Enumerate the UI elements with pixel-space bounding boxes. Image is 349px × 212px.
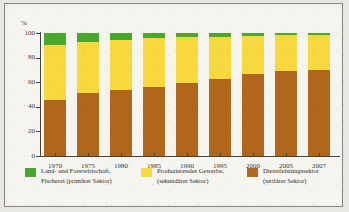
bar-segment-primärer (44, 33, 66, 45)
y-axis-tick-label: 60 (9, 79, 35, 86)
x-axis-tick (286, 153, 287, 157)
bar-column[interactable] (110, 33, 132, 156)
bar-segment-tertiärer (275, 71, 297, 156)
bar-segment-sekundärer (44, 45, 66, 100)
bar-segment-tertiärer (44, 100, 66, 156)
y-axis-tick-label: 100 (9, 30, 35, 37)
stacked-bar (242, 33, 264, 156)
stacked-bar (275, 33, 297, 156)
y-axis-tick (36, 156, 41, 157)
y-axis-labels: 020406080100 (7, 6, 35, 172)
legend-label-line1: Dienstleistungssektor (263, 166, 349, 176)
legend-label: Dienstleistungssektor(tertiärer Sektor) (263, 166, 349, 185)
x-axis-tick (220, 153, 221, 157)
bar-segment-sekundärer (77, 42, 99, 94)
bar-segment-tertiärer (308, 70, 330, 156)
chart-legend: Land- und Forstwirtschaft,Fischerei (pri… (7, 166, 346, 200)
legend-color-swatch (141, 168, 152, 177)
y-axis-tick (36, 107, 41, 108)
bar-segment-primärer (176, 33, 198, 37)
bar-segment-primärer (242, 33, 264, 36)
bar-segment-sekundärer (308, 35, 330, 69)
bar-segment-tertiärer (176, 83, 198, 156)
bar-column[interactable] (44, 33, 66, 156)
x-axis-tick (253, 153, 254, 157)
y-axis-tick (36, 131, 41, 132)
bar-segment-primärer (209, 33, 231, 37)
x-axis-tick (55, 153, 56, 157)
y-axis-tick-label: 0 (9, 153, 35, 160)
bar-segment-sekundärer (275, 35, 297, 70)
x-axis-tick (88, 153, 89, 157)
bar-segment-sekundärer (176, 37, 198, 83)
bar-column[interactable] (176, 33, 198, 156)
y-axis-tick (36, 33, 41, 34)
stacked-bar (44, 33, 66, 156)
bar-segment-primärer (308, 33, 330, 35)
y-axis-tick (36, 82, 41, 83)
bar-segment-tertiärer (110, 90, 132, 156)
bar-segment-sekundärer (209, 37, 231, 79)
legend-color-swatch (247, 168, 258, 177)
stacked-bar (110, 33, 132, 156)
y-axis-tick-label: 20 (9, 128, 35, 135)
bar-segment-primärer (77, 33, 99, 42)
x-axis-tick (187, 153, 188, 157)
plot-area: % 020406080100 1970197519801985199019952… (7, 6, 346, 172)
bar-segment-tertiärer (143, 87, 165, 156)
x-axis-tick (319, 153, 320, 157)
chart-figure: % 020406080100 1970197519801985199019952… (0, 0, 349, 212)
bar-segment-tertiärer (209, 79, 231, 156)
legend-label-line1: Land- und Forstwirtschaft, (41, 166, 146, 176)
bar-column[interactable] (77, 33, 99, 156)
bar-segment-primärer (110, 33, 132, 40)
legend-color-swatch (25, 168, 36, 177)
y-axis-tick (36, 58, 41, 59)
stacked-bar (77, 33, 99, 156)
bar-segment-primärer (275, 33, 297, 35)
legend-label: Land- und Forstwirtschaft,Fischerei (pri… (41, 166, 146, 185)
bar-column[interactable] (242, 33, 264, 156)
stacked-bar (308, 33, 330, 156)
bar-segment-sekundärer (143, 38, 165, 87)
x-axis-tick (121, 153, 122, 157)
bar-segment-tertiärer (77, 93, 99, 156)
x-axis-tick (154, 153, 155, 157)
stacked-bar (143, 33, 165, 156)
bar-column[interactable] (143, 33, 165, 156)
legend-label-line2: (tertiärer Sektor) (263, 176, 349, 186)
y-axis-tick-label: 40 (9, 103, 35, 110)
bar-group: 197019751980198519901995200020052007 (41, 6, 340, 172)
bar-segment-tertiärer (242, 74, 264, 156)
chart-plate-inner: % 020406080100 1970197519801985199019952… (7, 6, 340, 204)
bar-column[interactable] (209, 33, 231, 156)
bar-segment-sekundärer (242, 36, 264, 74)
chart-plate: % 020406080100 1970197519801985199019952… (4, 3, 343, 207)
legend-label-line2: Fischerei (primärer Sektor) (41, 176, 146, 186)
stacked-bar (176, 33, 198, 156)
bar-column[interactable] (275, 33, 297, 156)
y-axis-tick-label: 80 (9, 54, 35, 61)
stacked-bar (209, 33, 231, 156)
bar-column[interactable] (308, 33, 330, 156)
bar-segment-primärer (143, 33, 165, 38)
bar-segment-sekundärer (110, 40, 132, 90)
